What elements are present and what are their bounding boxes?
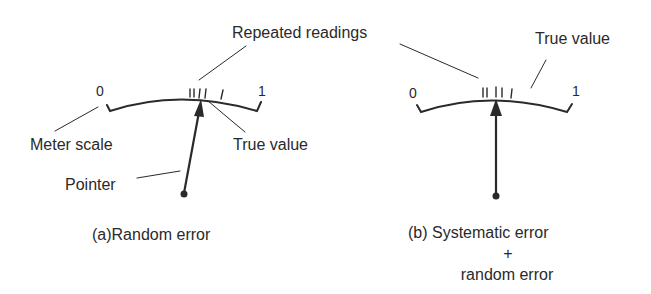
- reading-ticks-b: [483, 87, 512, 98]
- repeated-readings-leader-a: [199, 46, 246, 80]
- meter-scale-label: Meter scale: [30, 136, 113, 153]
- caption-b-line3: random error: [461, 266, 554, 283]
- pointer-arrowhead-a: [194, 99, 204, 117]
- pointer-needle-a: [184, 112, 199, 193]
- pointer-pivot-b: [493, 193, 500, 200]
- panel-b-systematic-random-error: 0 1 True value (b) Systematic error + ra…: [408, 30, 610, 283]
- caption-b-line2: +: [503, 245, 512, 262]
- measurement-error-diagram: Repeated readings 0 1 Meter scale True v…: [0, 0, 651, 294]
- pointer-leader: [137, 171, 180, 178]
- pointer-label: Pointer: [65, 176, 116, 193]
- diagram-canvas: Repeated readings 0 1 Meter scale True v…: [0, 0, 651, 294]
- pointer-pivot-a: [181, 191, 188, 198]
- reading-ticks-a: [190, 89, 223, 99]
- meter-scale-arc-a: [107, 100, 261, 112]
- true-value-label-a: True value: [233, 136, 308, 153]
- true-value-label-b: True value: [535, 30, 610, 47]
- true-value-leader-b: [531, 60, 546, 88]
- caption-a: (a)Random error: [92, 226, 211, 243]
- scale-max-label-b: 1: [572, 83, 580, 99]
- scale-max-label-a: 1: [258, 83, 266, 99]
- caption-b-line1: (b) Systematic error: [408, 224, 549, 241]
- repeated-readings-leader-b: [400, 44, 478, 78]
- meter-scale-leader: [55, 107, 98, 131]
- panel-a-random-error: 0 1 Meter scale True value Pointer (a)Ra…: [30, 83, 308, 243]
- repeated-readings-label: Repeated readings: [232, 24, 367, 41]
- scale-min-label-b: 0: [409, 85, 417, 101]
- scale-min-label-a: 0: [96, 83, 104, 99]
